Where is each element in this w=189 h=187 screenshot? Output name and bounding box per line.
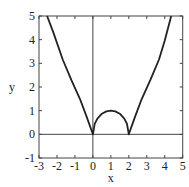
- y-tick-label: -1: [25, 151, 35, 165]
- y-tick-label: 0: [29, 127, 35, 141]
- x-tick-label: 0: [90, 159, 96, 173]
- y-tick-label: 1: [29, 104, 35, 118]
- x-tick-label: -2: [52, 159, 62, 173]
- y-axis-label: y: [9, 80, 15, 94]
- y-tick-label: 4: [29, 33, 35, 47]
- x-tick-label: -3: [34, 159, 44, 173]
- y-tick-label: 2: [29, 80, 35, 94]
- data-curve: [47, 16, 171, 134]
- x-tick-label: 3: [144, 159, 150, 173]
- x-tick-label: 4: [162, 159, 168, 173]
- x-axis-label: x: [108, 171, 114, 185]
- x-tick-label: 2: [126, 159, 132, 173]
- y-tick-label: 3: [29, 56, 35, 70]
- plot-frame: [39, 16, 183, 158]
- y-tick-label: 5: [29, 9, 35, 23]
- x-tick-label: 5: [180, 159, 186, 173]
- chart: -3-2-1012345-1012345xy: [0, 0, 189, 187]
- x-tick-label: -1: [70, 159, 80, 173]
